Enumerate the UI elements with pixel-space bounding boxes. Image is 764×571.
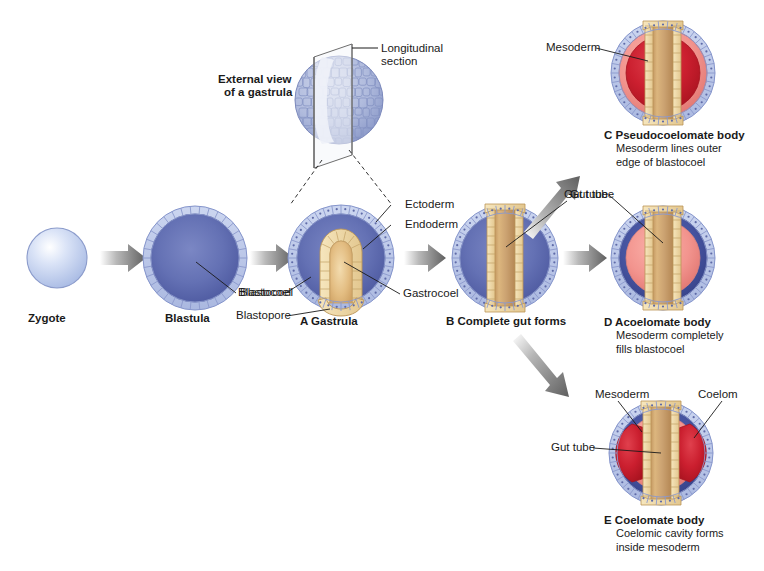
- acoelomate-sub-line1: Mesoderm completely: [604, 329, 724, 343]
- arrow-zygote-to-blastula: [100, 244, 146, 272]
- gastrula-label: A Gastrula: [300, 315, 358, 329]
- blastula-cell: [142, 205, 248, 311]
- endoderm-label: Endoderm: [405, 218, 458, 232]
- external-view-label-line1: External view: [218, 73, 292, 87]
- longitudinal-section-plane: [314, 44, 352, 168]
- gastrula-cell: [287, 204, 395, 316]
- arrow-to-coelomate: [513, 334, 569, 397]
- arrow-to-pseudocoelomate: [524, 176, 580, 239]
- arrow-gastrula-to-gut: [404, 244, 446, 272]
- coelomate-sub-line2: inside mesoderm: [604, 541, 724, 555]
- coelom-label-e: Coelom: [698, 388, 738, 402]
- gut-tube-lumen: [651, 22, 675, 124]
- mesoderm-label-e: Mesoderm: [595, 388, 649, 402]
- gastrula-blastocoel-label: Blastocoel: [238, 286, 291, 300]
- arrow-blastula-to-gastrula: [250, 244, 294, 272]
- mesoderm-label-c: Mesoderm: [546, 41, 600, 55]
- pseudocoelomate-sub-line1: Mesoderm lines outer: [604, 142, 745, 156]
- zygote-label: Zygote: [28, 312, 66, 326]
- coelomate-title: E Coelomate body: [604, 513, 724, 527]
- gut-tube-lumen: [651, 207, 675, 309]
- coelomate-sub-line1: Coelomic cavity forms: [604, 527, 724, 541]
- gut-tube-label-e: Gut tube: [551, 441, 595, 455]
- external-view-label-line2: of a gastrula: [224, 86, 292, 100]
- longitudinal-section-label-line1: Longitudinal: [381, 42, 443, 56]
- diagram-svg: [0, 0, 764, 571]
- gut-tube-lumen: [493, 205, 517, 311]
- complete-gut-label: B Complete gut forms: [446, 315, 566, 329]
- acoelomate-cell: [610, 205, 716, 311]
- acoelomate-sub-line2: fills blastocoel: [604, 343, 724, 357]
- acoelomate-title: D Acoelomate body: [604, 315, 724, 329]
- zygote-cell: [27, 228, 87, 288]
- gut-tube-label-d: Gut tube: [564, 188, 608, 202]
- pseudocoelomate-title: C Pseudocoelomate body: [604, 128, 745, 142]
- gastrocoel-label: Gastrocoel: [403, 287, 459, 301]
- blastula-label: Blastula: [165, 312, 210, 326]
- figure-canvas: Zygote Blastula Blastocoel External view…: [0, 0, 764, 571]
- external-gastrula-view: [290, 44, 396, 205]
- ectoderm-label: Ectoderm: [405, 198, 454, 212]
- gastrocoel-cavity: [330, 241, 352, 303]
- arrow-to-acoelomate: [563, 244, 607, 272]
- pseudocoelomate-sub-line2: edge of blastocoel: [604, 156, 745, 170]
- longitudinal-section-label-line2: section: [381, 55, 417, 69]
- pseudocoelomate-cell: [610, 20, 716, 126]
- blastopore-label: Blastopore: [236, 309, 291, 323]
